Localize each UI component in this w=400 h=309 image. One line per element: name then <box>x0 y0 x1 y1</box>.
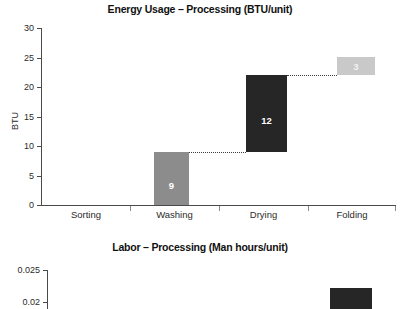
labor-chart-title: Labor – Processing (Man hours/unit) <box>0 241 400 253</box>
bar-folding[interactable]: 3 <box>337 57 375 75</box>
y-tick-25 <box>37 58 41 59</box>
y-tick-20 <box>37 87 41 88</box>
connector-drying-folding <box>287 75 337 76</box>
y-tick-5 <box>37 176 41 177</box>
bar-washing[interactable]: 9 <box>154 152 189 205</box>
y-tick-label-15: 15 <box>6 112 34 122</box>
labor-y-tick-label-002: 0.02 <box>2 297 40 307</box>
y-tick-label-20: 20 <box>6 82 34 92</box>
y-tick-label-25: 25 <box>6 53 34 63</box>
labor-chart: Labor – Processing (Man hours/unit) 0.02… <box>0 232 400 309</box>
energy-usage-chart: Energy Usage – Processing (BTU/unit) BTU… <box>0 0 400 232</box>
y-tick-label-10: 10 <box>6 141 34 151</box>
y-tick-10 <box>37 146 41 147</box>
labor-bar-partial[interactable] <box>330 288 372 309</box>
bar-value-washing: 9 <box>154 180 189 191</box>
y-axis-line <box>41 28 42 206</box>
bar-drying[interactable]: 12 <box>246 75 287 152</box>
slide-canvas: Energy Usage – Processing (BTU/unit) BTU… <box>0 0 400 309</box>
bar-value-folding: 3 <box>337 61 375 72</box>
connector-washing-drying <box>189 152 246 153</box>
y-tick-label-5: 5 <box>6 171 34 181</box>
labor-y-tick-002 <box>43 302 47 303</box>
y-tick-30 <box>37 28 41 29</box>
y-tick-0 <box>37 205 41 206</box>
y-tick-label-0: 0 <box>6 200 34 210</box>
labor-y-tick-label-0025: 0.025 <box>2 265 40 275</box>
labor-y-axis-line <box>47 270 48 309</box>
x-label-folding: Folding <box>308 209 396 220</box>
x-label-sorting: Sorting <box>42 209 130 220</box>
y-tick-label-30: 30 <box>6 23 34 33</box>
energy-usage-chart-title: Energy Usage – Processing (BTU/unit) <box>0 3 400 15</box>
x-label-drying: Drying <box>219 209 308 220</box>
y-tick-15 <box>37 117 41 118</box>
x-label-washing: Washing <box>130 209 219 220</box>
labor-y-tick-0025 <box>43 270 47 271</box>
bar-value-drying: 12 <box>246 115 287 126</box>
